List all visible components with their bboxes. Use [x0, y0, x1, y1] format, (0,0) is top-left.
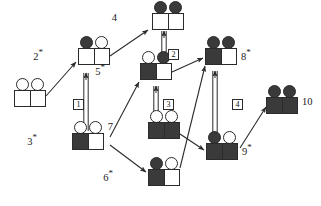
node-3-square — [72, 133, 104, 150]
node-10-square-left — [267, 98, 283, 113]
node-5-square-right — [157, 64, 172, 79]
edge-label-2: 2 — [168, 49, 179, 60]
node-7-square-right — [165, 123, 180, 138]
node-3-star: * — [33, 132, 38, 142]
diagram-canvas: 12*3*45*6*78*9*10 1234 — [0, 0, 321, 206]
node-7-label-text: 7 — [108, 121, 113, 132]
node-9-label: 9* — [242, 142, 252, 157]
node-8-star: * — [246, 47, 251, 57]
node-4-label-text: 4 — [112, 12, 117, 23]
node-9-square-right — [223, 144, 238, 159]
node-2-square-left — [79, 49, 95, 64]
arrow-3-to-6 — [110, 145, 146, 172]
node-3-square-right — [89, 134, 104, 149]
node-4-square — [152, 13, 184, 30]
node-8-square-left — [206, 49, 222, 64]
node-9-square-left — [207, 144, 223, 159]
node-3-square-left — [73, 134, 89, 149]
node-4-square-right — [169, 14, 184, 29]
arrow-5-to-8 — [172, 58, 203, 72]
node-3-label: 3* — [27, 132, 37, 147]
node-5-star: * — [101, 62, 106, 72]
edge-label-3: 3 — [163, 99, 174, 110]
node-8-square-right — [222, 49, 237, 64]
arrow-7-to-9 — [180, 134, 204, 150]
node-9-square — [206, 143, 238, 160]
arrow-6-to-8 — [180, 66, 205, 168]
node-6-square — [148, 169, 180, 186]
node-2-label: 2* — [33, 47, 43, 62]
node-10-square — [266, 97, 298, 114]
arrow-1-to-2 — [46, 62, 76, 96]
node-2-square — [78, 48, 110, 65]
node-5-label: 5* — [95, 62, 105, 77]
node-4-label: 4 — [112, 12, 117, 23]
node-10-square-right — [283, 98, 298, 113]
node-6-square-left — [149, 170, 165, 185]
node-5-square-left — [141, 64, 157, 79]
node-9-star: * — [247, 142, 252, 152]
node-4-square-left — [153, 14, 169, 29]
node-10-label-text: 10 — [302, 96, 313, 107]
node-2-star: * — [39, 47, 44, 57]
node-6-label: 6* — [103, 168, 113, 183]
edge-label-1: 1 — [73, 99, 84, 110]
node-6-square-right — [165, 170, 180, 185]
node-7-square — [148, 122, 180, 139]
arrow-3-to-5 — [110, 82, 139, 137]
node-10-label: 10 — [302, 96, 313, 107]
node-7-label: 7 — [108, 121, 113, 132]
node-1-square-right — [31, 91, 46, 106]
node-7-square-left — [149, 123, 165, 138]
node-5-square — [140, 63, 172, 80]
node-1-square-left — [15, 91, 31, 106]
node-1-square — [14, 90, 46, 107]
node-6-star: * — [109, 168, 114, 178]
arrow-2-to-4 — [110, 30, 148, 56]
node-8-square — [205, 48, 237, 65]
node-8-label: 8* — [241, 47, 251, 62]
edge-label-4: 4 — [232, 99, 243, 110]
